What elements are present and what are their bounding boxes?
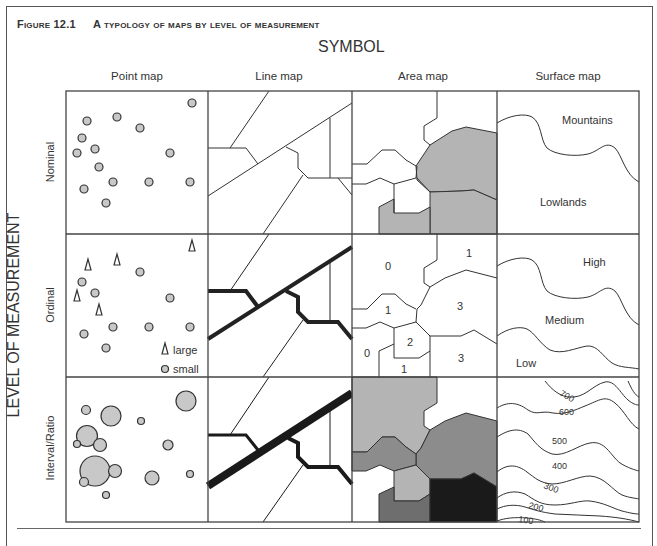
area-map-ordinal: 0 1 1 3 2 0 1 3 [352, 234, 497, 377]
label-medium: Medium [545, 314, 584, 326]
area-label-0-top: 0 [385, 260, 391, 272]
area-map-interval [352, 377, 497, 522]
area-label-0-bottom-left: 0 [364, 347, 370, 359]
area-label-1-left: 1 [385, 304, 391, 316]
legend-small-label: small [173, 363, 199, 375]
contour-label-100: 100 [518, 514, 534, 526]
area-label-2-center: 2 [407, 336, 413, 348]
area-label-1-top-right: 1 [466, 247, 472, 259]
area-map-nominal [352, 91, 497, 234]
label-low: Low [516, 357, 536, 369]
label-mountains: Mountains [562, 114, 613, 126]
contour-label-300: 300 [542, 480, 560, 495]
contour-label-600: 600 [559, 407, 574, 417]
surface-map-ordinal: High Medium Low [497, 256, 639, 369]
triangle-large-icon [162, 343, 168, 354]
point-map-nominal [73, 99, 196, 207]
point-map-interval [74, 391, 197, 499]
circle-small-icon [162, 366, 169, 373]
contour-label-400: 400 [552, 461, 567, 471]
contour-label-200: 200 [527, 500, 544, 514]
line-map-interval [208, 377, 352, 522]
surface-map-nominal: Mountains Lowlands [497, 114, 639, 208]
legend-large-label: large [173, 344, 197, 356]
label-high: High [583, 256, 606, 268]
contour-label-500: 500 [552, 436, 567, 446]
bottom-rule [17, 528, 641, 529]
area-label-1-bottom: 1 [401, 363, 407, 375]
area-label-3-bottom-right: 3 [458, 352, 464, 364]
point-map-ordinal: large small [74, 240, 199, 375]
ordinal-legend: large small [162, 343, 199, 375]
line-map-ordinal [208, 234, 352, 377]
contour-label-700: 700 [558, 388, 576, 404]
grid-lines [66, 91, 639, 522]
area-label-3-right: 3 [457, 300, 463, 312]
label-lowlands: Lowlands [540, 196, 587, 208]
line-map-nominal [208, 91, 352, 234]
